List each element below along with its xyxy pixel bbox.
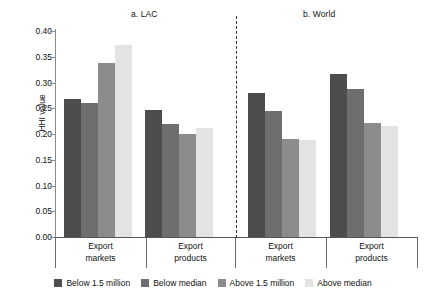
- bar-group: [145, 29, 213, 237]
- category-label-line: Export: [326, 241, 417, 253]
- legend-swatch: [141, 279, 149, 287]
- y-tick-label: 0.00: [20, 233, 52, 242]
- panel-title-lac: a. LAC: [131, 9, 158, 19]
- y-tick-label: 0.20: [20, 130, 52, 139]
- y-tick-mark: [50, 237, 55, 238]
- bar: [115, 45, 132, 237]
- legend-item: Below median: [141, 278, 206, 288]
- category-label: Exportproducts: [326, 241, 417, 264]
- y-tick-label: 0.10: [20, 181, 52, 190]
- y-tick-label: 0.25: [20, 104, 52, 113]
- bar-group: [330, 29, 398, 237]
- category-label: Exportmarkets: [55, 241, 146, 264]
- bar: [196, 128, 213, 237]
- category-label-line: products: [146, 253, 235, 265]
- bar-group: [64, 29, 132, 237]
- panel-title-world: b. World: [303, 9, 335, 19]
- plot-area: [56, 29, 418, 237]
- category-label: Exportproducts: [146, 241, 235, 264]
- y-tick-mark: [50, 83, 55, 84]
- category-label-line: Export: [146, 241, 235, 253]
- bar: [381, 126, 398, 237]
- category-label: Exportmarkets: [235, 241, 326, 264]
- legend-item: Above median: [305, 278, 371, 288]
- legend-swatch: [218, 279, 226, 287]
- bar: [162, 124, 179, 237]
- y-tick-label: 0.30: [20, 78, 52, 87]
- y-tick-mark: [50, 134, 55, 135]
- legend-label: Above 1.5 million: [230, 278, 295, 288]
- bar: [265, 111, 282, 237]
- category-label-line: Export: [55, 241, 146, 253]
- bar: [347, 89, 364, 237]
- y-tick-mark: [50, 31, 55, 32]
- y-tick-mark: [50, 211, 55, 212]
- bar: [179, 134, 196, 237]
- legend-item: Below 1.5 million: [54, 278, 130, 288]
- category-separator: [417, 238, 418, 268]
- y-axis-tick-labels: 0.000.050.100.150.200.250.300.350.40: [20, 31, 52, 237]
- bar: [81, 103, 98, 237]
- legend-item: Above 1.5 million: [218, 278, 295, 288]
- y-tick-label: 0.35: [20, 53, 52, 62]
- category-label-line: markets: [55, 253, 146, 265]
- hhi-value-grouped-bar-chart: a. LAC b. World HHI value 0.000.050.100.…: [0, 0, 426, 301]
- bar-group: [248, 29, 316, 237]
- y-tick-mark: [50, 108, 55, 109]
- y-tick-label: 0.15: [20, 156, 52, 165]
- bar: [64, 99, 81, 237]
- legend-label: Below median: [153, 278, 206, 288]
- bar: [282, 139, 299, 237]
- bar: [98, 63, 115, 237]
- y-tick-mark: [50, 57, 55, 58]
- legend-swatch: [305, 279, 313, 287]
- legend-label: Above median: [317, 278, 371, 288]
- legend-swatch: [54, 279, 62, 287]
- y-tick-mark: [50, 186, 55, 187]
- panel-divider: [236, 16, 237, 238]
- legend-label: Below 1.5 million: [66, 278, 130, 288]
- y-tick-mark: [50, 160, 55, 161]
- y-tick-label: 0.40: [20, 27, 52, 36]
- category-label-line: products: [326, 253, 417, 265]
- bar: [299, 140, 316, 237]
- y-tick-label: 0.05: [20, 207, 52, 216]
- category-label-line: Export: [235, 241, 326, 253]
- chart-legend: Below 1.5 millionBelow medianAbove 1.5 m…: [0, 278, 426, 288]
- bar: [330, 74, 347, 237]
- category-axis: ExportmarketsExportproductsExportmarkets…: [55, 238, 418, 270]
- bar: [364, 123, 381, 237]
- category-label-line: markets: [235, 253, 326, 265]
- bar: [145, 110, 162, 237]
- bar: [248, 93, 265, 237]
